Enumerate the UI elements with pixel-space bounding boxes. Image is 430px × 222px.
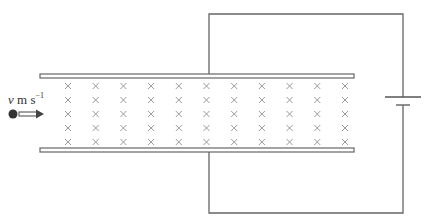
field-cross-icon (93, 111, 99, 117)
field-cross-icon (259, 111, 265, 117)
field-cross-icon (287, 97, 293, 103)
field-cross-icon (287, 83, 293, 89)
field-cross-icon (342, 83, 348, 89)
field-cross-icon (148, 125, 154, 131)
field-cross-icon (120, 111, 126, 117)
field-cross-icon (342, 111, 348, 117)
field-cross-icon (231, 83, 237, 89)
charged-particle (9, 110, 18, 119)
bottom-plate (40, 148, 354, 152)
field-cross-icon (120, 125, 126, 131)
field-cross-icon (314, 125, 320, 131)
field-cross-icon (259, 139, 265, 145)
field-cross-icon (231, 125, 237, 131)
field-cross-icon (204, 139, 210, 145)
field-cross-icon (314, 97, 320, 103)
wire-top (209, 14, 403, 97)
field-cross-icon (342, 125, 348, 131)
field-cross-icon (342, 97, 348, 103)
field-cross-icon (120, 97, 126, 103)
field-cross-icon (120, 139, 126, 145)
field-cross-icon (176, 125, 182, 131)
field-cross-icon (259, 97, 265, 103)
field-cross-icon (204, 83, 210, 89)
field-cross-icon (287, 125, 293, 131)
velocity-arrow-icon (19, 110, 44, 119)
field-cross-icon (148, 139, 154, 145)
field-cross-icon (176, 97, 182, 103)
field-cross-icon (176, 111, 182, 117)
velocity-label: v m s−1 (8, 91, 44, 108)
magnetic-field-into-page (65, 83, 348, 145)
velocity-exponent: −1 (35, 91, 44, 100)
field-cross-icon (204, 111, 210, 117)
field-cross-icon (314, 139, 320, 145)
field-cross-icon (120, 83, 126, 89)
field-cross-icon (93, 125, 99, 131)
field-cross-icon (314, 83, 320, 89)
field-cross-icon (259, 125, 265, 131)
top-plate (40, 74, 354, 78)
velocity-units: m s (14, 92, 36, 107)
field-cross-icon (65, 83, 71, 89)
field-cross-icon (176, 139, 182, 145)
field-cross-icon (259, 83, 265, 89)
circuit-diagram (0, 0, 430, 222)
field-cross-icon (148, 111, 154, 117)
field-cross-icon (204, 125, 210, 131)
field-cross-icon (93, 139, 99, 145)
field-cross-icon (176, 83, 182, 89)
field-cross-icon (65, 139, 71, 145)
field-cross-icon (148, 97, 154, 103)
field-cross-icon (231, 139, 237, 145)
field-cross-icon (231, 111, 237, 117)
field-cross-icon (204, 97, 210, 103)
field-cross-icon (342, 139, 348, 145)
field-cross-icon (287, 111, 293, 117)
field-cross-icon (287, 139, 293, 145)
field-cross-icon (231, 97, 237, 103)
field-cross-icon (148, 83, 154, 89)
field-cross-icon (65, 125, 71, 131)
field-cross-icon (314, 111, 320, 117)
field-cross-icon (65, 111, 71, 117)
field-cross-icon (93, 83, 99, 89)
wire-bottom (209, 105, 403, 213)
diagram-canvas: v m s−1 (0, 0, 430, 222)
field-cross-icon (93, 97, 99, 103)
field-cross-icon (65, 97, 71, 103)
